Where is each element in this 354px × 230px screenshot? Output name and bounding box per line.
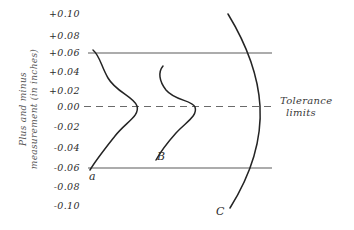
tolerance-annotation-line1: Tolerance [280,95,332,106]
y-tick-label-1: +0.08 [34,31,80,41]
y-tick-label-9: -0.08 [34,182,80,192]
quality-control-chart: +0.10 +0.08 +0.06 +0.04 +0.02 0.00 -0.02… [0,0,354,230]
y-tick-label-8: -0.06 [34,163,80,173]
curve-b-label: B [157,150,165,163]
y-axis-title: Plus and minus measurement (in inches) [18,14,40,204]
y-axis-title-line2: measurement (in inches) [29,14,40,204]
y-tick-label-3: +0.04 [34,67,80,77]
tolerance-limits-annotation: Tolerance limits [280,95,332,119]
y-tick-label-0: +0.10 [34,9,80,19]
curve-a [90,50,137,170]
y-tick-label-10: -0.10 [34,201,80,211]
curve-c-label: C [216,205,224,218]
y-tick-label-6: -0.02 [34,122,80,132]
y-tick-label-5: 0.00 [34,102,80,112]
y-tick-label-4: +0.02 [34,86,80,96]
curve-a-label: a [89,170,96,183]
tolerance-annotation-line2: limits [286,107,316,119]
y-axis-title-line1: Plus and minus [18,72,28,146]
y-tick-label-2: +0.06 [34,48,80,58]
curve-c [228,14,260,208]
y-tick-label-7: -0.04 [34,143,80,153]
curve-b [156,66,195,160]
